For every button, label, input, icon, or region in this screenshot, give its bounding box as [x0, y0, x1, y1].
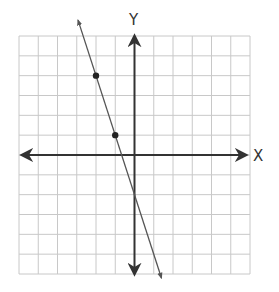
- plotted-line: [78, 20, 161, 278]
- coordinate-plane: X Y: [0, 0, 279, 292]
- linear-function-line: [78, 20, 161, 278]
- x-axis-label: X: [253, 147, 263, 165]
- plotted-point: [112, 132, 118, 138]
- plotted-point: [93, 72, 99, 78]
- y-axis-label: Y: [128, 11, 139, 29]
